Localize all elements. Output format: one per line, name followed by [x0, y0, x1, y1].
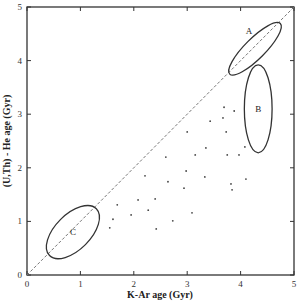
y-tick-label: 3 [18, 109, 23, 119]
data-point [154, 198, 156, 200]
data-point [230, 183, 232, 185]
region-a-label: A [246, 26, 253, 36]
data-point [172, 220, 174, 222]
y-tick-label: 1 [18, 216, 23, 226]
data-point [191, 212, 193, 214]
y-tick-label: 4 [18, 56, 23, 66]
scatter-points [109, 106, 247, 229]
x-tick-label: 1 [78, 279, 83, 289]
data-point [183, 187, 185, 189]
data-point [204, 176, 206, 178]
data-point [165, 156, 167, 158]
data-point [225, 131, 227, 133]
x-tick-label: 5 [292, 279, 297, 289]
chart: 012345012345 ABC K-Ar age (Gyr) (U,Th) -… [0, 0, 301, 307]
axis-tick-labels: 012345012345 [18, 2, 297, 289]
data-point [109, 227, 111, 229]
one-to-one-reference-line [27, 7, 294, 275]
region-a-ellipse [223, 16, 288, 81]
region-ellipses: ABC [37, 16, 288, 268]
data-point [130, 214, 132, 216]
data-point [205, 147, 207, 149]
data-point [186, 131, 188, 133]
data-point [167, 181, 169, 183]
y-tick-label: 5 [18, 2, 23, 12]
region-c-label: C [70, 227, 76, 237]
data-point [231, 189, 233, 191]
data-point [244, 146, 246, 148]
region-b-label: B [255, 104, 261, 114]
data-point [209, 120, 211, 122]
data-point [137, 199, 139, 201]
data-point [233, 110, 235, 112]
x-tick-label: 2 [132, 279, 137, 289]
data-point [194, 154, 196, 156]
data-point [245, 178, 247, 180]
data-point [226, 154, 228, 156]
data-point [147, 209, 149, 211]
y-tick-label: 2 [18, 163, 23, 173]
data-point [116, 204, 118, 206]
x-tick-label: 3 [185, 279, 190, 289]
data-point [222, 117, 224, 119]
y-axis-title: (U,Th) - He age (Gyr) [1, 95, 13, 187]
data-point [112, 218, 114, 220]
x-tick-label: 4 [238, 279, 243, 289]
data-point [238, 154, 240, 156]
data-point [155, 228, 157, 230]
data-point [144, 175, 146, 177]
x-axis-title: K-Ar age (Gyr) [127, 289, 193, 301]
y-tick-label: 0 [18, 270, 23, 280]
data-point [185, 170, 187, 172]
data-point [223, 106, 225, 108]
x-tick-label: 0 [25, 279, 30, 289]
